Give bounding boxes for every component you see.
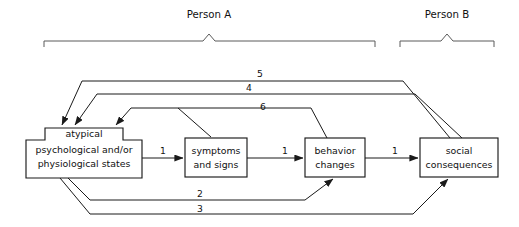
node-social-consequences-line-2: consequences [426,159,493,170]
edge-1a-path: 1 [142,145,183,158]
edge-1b-label: 1 [282,145,288,156]
edge-6-label: 6 [260,101,266,112]
edge-5-label: 5 [257,68,263,79]
group-label-person-b: Person B [425,9,469,20]
edge-2-label: 2 [197,188,203,199]
node-behavior-changes-line-2: changes [315,159,355,170]
group-bracket-person-b: Person B [400,9,494,47]
flow-diagram-canvas: Person A Person B 5 4 6 2 [0,0,519,227]
node-symptoms-signs-line-1: symptoms [192,145,241,156]
edge-4-path: 4 [75,82,462,138]
node-social-consequences-line-1: social [446,145,473,156]
edge-3-label: 3 [197,203,203,214]
edge-2-path: 2 [68,178,333,200]
node-atypical-states-line-1: atypical [65,128,102,139]
node-behavior-changes: behavior changes [305,138,365,177]
edge-6-path: 6 [116,101,327,138]
node-behavior-changes-line-1: behavior [314,145,355,156]
edge-3-path: 3 [60,178,448,214]
node-symptoms-signs: symptoms and signs [185,138,247,177]
edge-1c-path: 1 [365,145,418,158]
node-symptoms-signs-line-2: and signs [194,159,239,170]
edge-4-label: 4 [246,82,252,93]
group-label-person-a: Person A [187,9,231,20]
node-atypical-states: atypical psychological and/or physiologi… [26,128,142,178]
node-social-consequences: social consequences [420,138,498,177]
node-atypical-states-line-3: physiological states [38,158,131,169]
diagram-page: Person A Person B 5 4 6 2 [0,0,519,227]
node-atypical-states-line-2: psychological and/or [36,144,133,155]
edge-1c-label: 1 [392,145,398,156]
edge-1a-label: 1 [160,145,166,156]
group-bracket-person-a: Person A [44,9,375,47]
edge-1b-path: 1 [247,145,303,158]
